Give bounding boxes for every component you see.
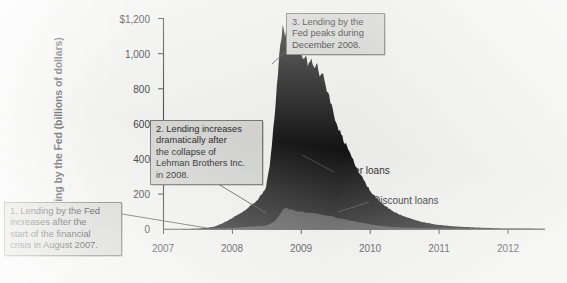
callout-3-line-1: 3. Lending by the [292, 17, 380, 28]
callout-1-leader-line [122, 214, 207, 228]
discount-loans-label: Discount loans [373, 195, 439, 206]
callout-2-line-1: 2. Lending increases [156, 124, 258, 135]
callout-2: 2. Lending increases dramatically after … [150, 120, 263, 185]
callout-3: 3. Lending by the Fed peaks during Decem… [286, 13, 385, 55]
callout-1-line-2: increases after the [10, 217, 117, 228]
other-loans-label: Other loans [338, 165, 390, 176]
callout-1-line-3: start of the financial [10, 229, 117, 240]
callout-2-line-4: Lehman Brothers Inc. [156, 158, 258, 169]
callout-1-line-4: crisis in August 2007. [10, 240, 117, 251]
callout-3-line-2: Fed peaks during [292, 28, 380, 39]
callout-2-line-2: dramatically after [156, 135, 258, 146]
chart-figure: Lending by the Fed (billions of dollars)… [0, 0, 567, 283]
callout-3-line-3: December 2008. [292, 40, 380, 51]
callout-1: 1. Lending by the Fed increases after th… [4, 202, 122, 256]
callout-1-line-1: 1. Lending by the Fed [10, 206, 117, 217]
callout-2-line-3: the collapse of [156, 147, 258, 158]
callout-2-line-5: in 2008. [156, 170, 258, 181]
